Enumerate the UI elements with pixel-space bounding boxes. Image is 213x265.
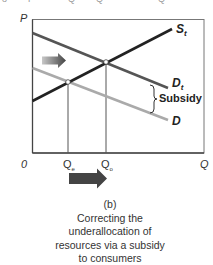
x-axis-label: Q — [200, 158, 209, 170]
origin-label: 0 — [21, 158, 27, 170]
st-label-main: S — [176, 22, 184, 36]
dt-label-main: D — [172, 76, 181, 90]
equilibrium-qo-point — [104, 60, 109, 65]
caption-line: to consumers — [20, 252, 200, 265]
qo-label: Qo — [101, 158, 113, 172]
panel-label: (b) — [20, 198, 200, 212]
caption-line: resources via a subsidy — [20, 239, 200, 253]
qo-label-main: Q — [101, 158, 110, 170]
figure-caption: (b) Correcting the underallocation of re… — [20, 198, 200, 265]
qe-label: Qe — [63, 158, 75, 172]
caption-line: Correcting the — [20, 212, 200, 226]
qe-label-main: Q — [63, 158, 72, 170]
d-label: D — [172, 114, 181, 128]
subsidy-label: Subsidy — [159, 92, 202, 104]
caption-line: underallocation of — [20, 225, 200, 239]
demand-shift-arrow-icon — [42, 53, 66, 68]
qo-label-sub: o — [110, 166, 113, 172]
st-label-sub: t — [184, 29, 187, 38]
supply-curve-st — [33, 29, 173, 101]
dt-label: Dt — [172, 76, 183, 92]
st-label: St — [176, 22, 187, 38]
demand-curve-d — [33, 68, 169, 120]
y-axis-label: P — [20, 12, 27, 24]
subsidy-brace-icon — [150, 85, 157, 113]
equilibrium-qe-point — [66, 80, 71, 85]
qe-label-sub: e — [72, 166, 75, 172]
